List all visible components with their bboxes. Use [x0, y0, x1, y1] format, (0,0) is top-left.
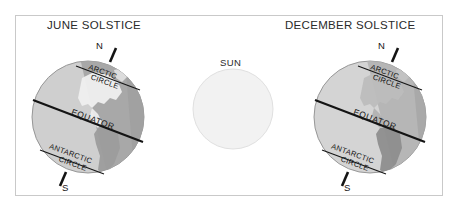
june-north-pole-label: N [96, 40, 103, 51]
december-south-pole-label: S [344, 182, 350, 193]
june-solstice-globe: ARCTIC CIRCLE EQUATOR ANTARCTIC CIRCLE [26, 44, 156, 194]
diagram-canvas: JUNE SOLSTICE DECEMBER SOLSTICE [0, 0, 458, 211]
june-south-pole-label: S [62, 182, 68, 193]
december-north-pole-label: N [378, 40, 385, 51]
december-solstice-title: DECEMBER SOLSTICE [285, 19, 415, 31]
sun-disc [193, 69, 273, 149]
sun-graphic [190, 66, 276, 152]
north-axis-stub [392, 48, 398, 62]
june-solstice-title: JUNE SOLSTICE [47, 19, 141, 31]
december-solstice-globe: ARCTIC CIRCLE EQUATOR ANTARCTIC CIRCLE [308, 44, 438, 194]
north-axis-stub [110, 48, 116, 62]
